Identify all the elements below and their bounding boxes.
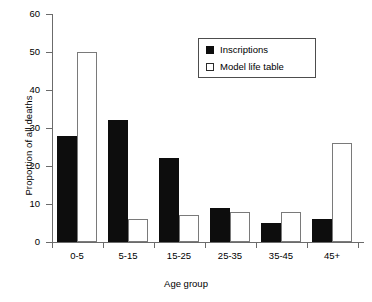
bar-model-life-table-5-15: [128, 219, 148, 242]
bar-chart: Proportion of all deaths 0102030405060 0…: [0, 0, 372, 302]
legend-item-model-life-table: Model life table: [206, 60, 284, 74]
bar-inscriptions-5-15: [108, 120, 128, 242]
x-tick-mark: [103, 243, 104, 248]
chart-legend: Inscriptions Model life table: [198, 38, 316, 78]
bar-model-life-table-0-5: [77, 52, 97, 242]
bar-model-life-table-45+: [332, 143, 352, 242]
legend-label: Inscriptions: [220, 45, 268, 55]
bar-inscriptions-25-35: [210, 208, 230, 242]
x-tick-mark: [256, 243, 257, 248]
bar-model-life-table-25-35: [230, 212, 250, 242]
x-tick-mark: [358, 243, 359, 248]
x-tick-label: 45+: [302, 250, 362, 261]
bar-inscriptions-35-45: [261, 223, 281, 242]
bar-model-life-table-15-25: [179, 215, 199, 242]
x-axis-label: Age group: [0, 278, 372, 289]
bar-inscriptions-15-25: [159, 158, 179, 242]
x-tick-mark: [307, 243, 308, 248]
legend-label: Model life table: [220, 62, 284, 72]
legend-swatch-filled-icon: [206, 46, 214, 54]
bar-inscriptions-0-5: [57, 136, 77, 242]
legend-item-inscriptions: Inscriptions: [206, 43, 268, 57]
x-tick-mark: [52, 243, 53, 248]
x-tick-mark: [154, 243, 155, 248]
x-tick-mark: [205, 243, 206, 248]
legend-swatch-open-icon: [206, 63, 214, 71]
bar-model-life-table-35-45: [281, 212, 301, 242]
bar-inscriptions-45+: [312, 219, 332, 242]
